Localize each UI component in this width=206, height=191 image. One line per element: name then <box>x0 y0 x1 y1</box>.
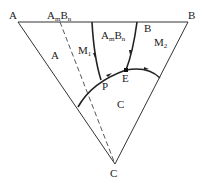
edge-bc <box>115 22 188 164</box>
boundary-curve-left <box>92 22 101 80</box>
region-label-a: A <box>51 49 59 61</box>
ternary-diagram: A B C AmBn A M1 AmBn B M2 C P E <box>0 0 206 191</box>
point-label-e: E <box>122 72 129 84</box>
vertex-label-c: C <box>110 167 117 179</box>
region-label-b: B <box>144 22 151 34</box>
compound-label: AmBn <box>47 9 72 23</box>
point-label-p: P <box>102 80 108 92</box>
edge-ac <box>18 22 115 164</box>
diagram-canvas: A B C AmBn A M1 AmBn B M2 C P E <box>0 0 206 191</box>
region-label-m2: M2 <box>154 36 168 50</box>
vertex-label-b: B <box>188 9 195 21</box>
region-label-ambn: AmBn <box>101 29 126 43</box>
boundary-curve-right <box>126 22 137 70</box>
vertex-label-a: A <box>9 9 17 21</box>
region-label-m1: M1 <box>78 44 92 58</box>
region-label-c: C <box>117 98 124 110</box>
